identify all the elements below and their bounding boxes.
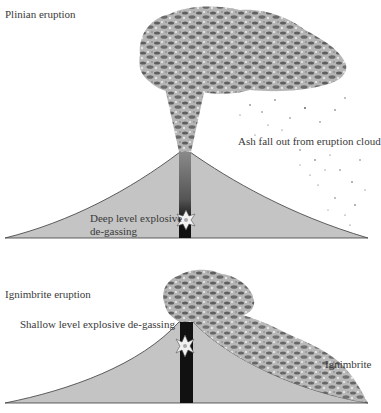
ignimbrite-label: Ignimbrite — [325, 358, 371, 371]
ignimbrite-cloud — [163, 270, 254, 322]
plinian-title: Plinian eruption — [5, 8, 76, 21]
ash-fallout-label: Ash fall out from eruption cloud — [238, 135, 381, 148]
ignimbrite-conduit — [180, 322, 193, 403]
eruption-column — [165, 88, 205, 152]
deep-degassing-label-line2: de-gassing — [90, 225, 137, 238]
deep-degassing-label-line1: Deep level explosive — [90, 212, 182, 225]
ignimbrite-title: Ignimbrite eruption — [5, 288, 91, 301]
shallow-degassing-label: Shallow level explosive de-gassing — [20, 318, 175, 331]
eruption-cloud — [139, 7, 346, 94]
plinian-panel — [5, 7, 368, 238]
